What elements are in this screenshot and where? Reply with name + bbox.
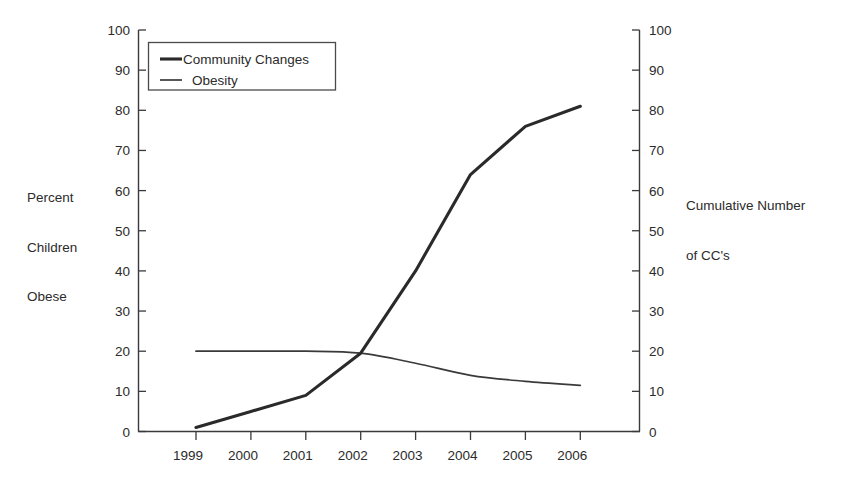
x-axis-tick-label: 2006 xyxy=(557,448,587,463)
y-axis-right-tick-label: 0 xyxy=(649,425,657,440)
y-axis-right-ticks: 0102030405060708090100 xyxy=(632,23,672,440)
x-axis-ticks: 19992000200120022003200420052006 xyxy=(173,432,587,464)
y-axis-right-tick-label: 50 xyxy=(649,224,664,239)
legend-label-obesity: Obesity xyxy=(192,73,238,88)
y-axis-left-tick-label: 0 xyxy=(122,425,130,440)
y-axis-right-tick-label: 40 xyxy=(649,264,664,279)
y-axis-right-tick-label: 100 xyxy=(649,23,672,38)
x-axis-tick-label: 2000 xyxy=(228,448,258,463)
x-axis-tick-label: 2004 xyxy=(447,448,478,463)
y-axis-left-tick-label: 70 xyxy=(115,143,130,158)
y-axis-right-tick-label: 90 xyxy=(649,63,664,78)
y-axis-left-tick-label: 20 xyxy=(115,344,130,359)
x-axis-tick-label: 2005 xyxy=(502,448,532,463)
y-axis-right-tick-label: 60 xyxy=(649,184,664,199)
y-axis-left-tick-label: 60 xyxy=(115,184,130,199)
x-axis-tick-label: 2002 xyxy=(338,448,368,463)
y-axis-left-tick-label: 50 xyxy=(115,224,130,239)
y-axis-left-tick-label: 100 xyxy=(107,23,130,38)
chart-plot-area: 0102030405060708090100 01020304050607080… xyxy=(0,0,852,488)
data-series-group xyxy=(196,106,580,427)
y-axis-left-tick-label: 90 xyxy=(115,63,130,78)
y-axis-left-tick-label: 40 xyxy=(115,264,130,279)
x-axis-tick-label: 1999 xyxy=(173,448,203,463)
y-axis-left-ticks: 0102030405060708090100 xyxy=(107,23,146,440)
y-axis-right-tick-label: 70 xyxy=(649,143,664,158)
y-axis-left-tick-label: 30 xyxy=(115,304,130,319)
y-axis-right-tick-label: 80 xyxy=(649,103,664,118)
y-axis-right-tick-label: 10 xyxy=(649,384,664,399)
x-axis-tick-label: 2003 xyxy=(393,448,423,463)
series-line-community-changes xyxy=(196,106,580,427)
y-axis-left-tick-label: 10 xyxy=(115,384,130,399)
y-axis-left-tick-label: 80 xyxy=(115,103,130,118)
legend-label-community-changes: Community Changes xyxy=(183,52,309,67)
chart-legend[interactable]: Community Changes Obesity xyxy=(149,43,336,91)
series-line-obesity xyxy=(196,351,580,385)
y-axis-right-tick-label: 20 xyxy=(649,344,664,359)
x-axis-tick-label: 2001 xyxy=(283,448,313,463)
y-axis-right-tick-label: 30 xyxy=(649,304,664,319)
chart-figure: Percent Children Obese Cumulative Number… xyxy=(0,0,852,488)
